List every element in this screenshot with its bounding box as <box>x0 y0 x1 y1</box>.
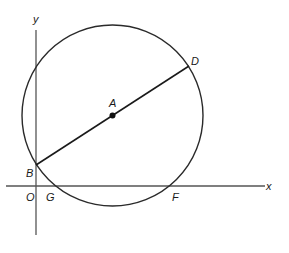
center-point-a <box>110 113 116 119</box>
point-d-label: D <box>191 55 199 67</box>
origin-label: O <box>26 191 35 203</box>
point-b-label: B <box>26 167 33 179</box>
point-f-label: F <box>172 191 180 203</box>
coordinate-diagram: y x O A B D G F <box>0 0 289 253</box>
x-axis-label: x <box>265 180 272 192</box>
point-a-label: A <box>108 97 116 109</box>
y-axis-label: y <box>32 13 40 25</box>
point-g-label: G <box>46 191 55 203</box>
